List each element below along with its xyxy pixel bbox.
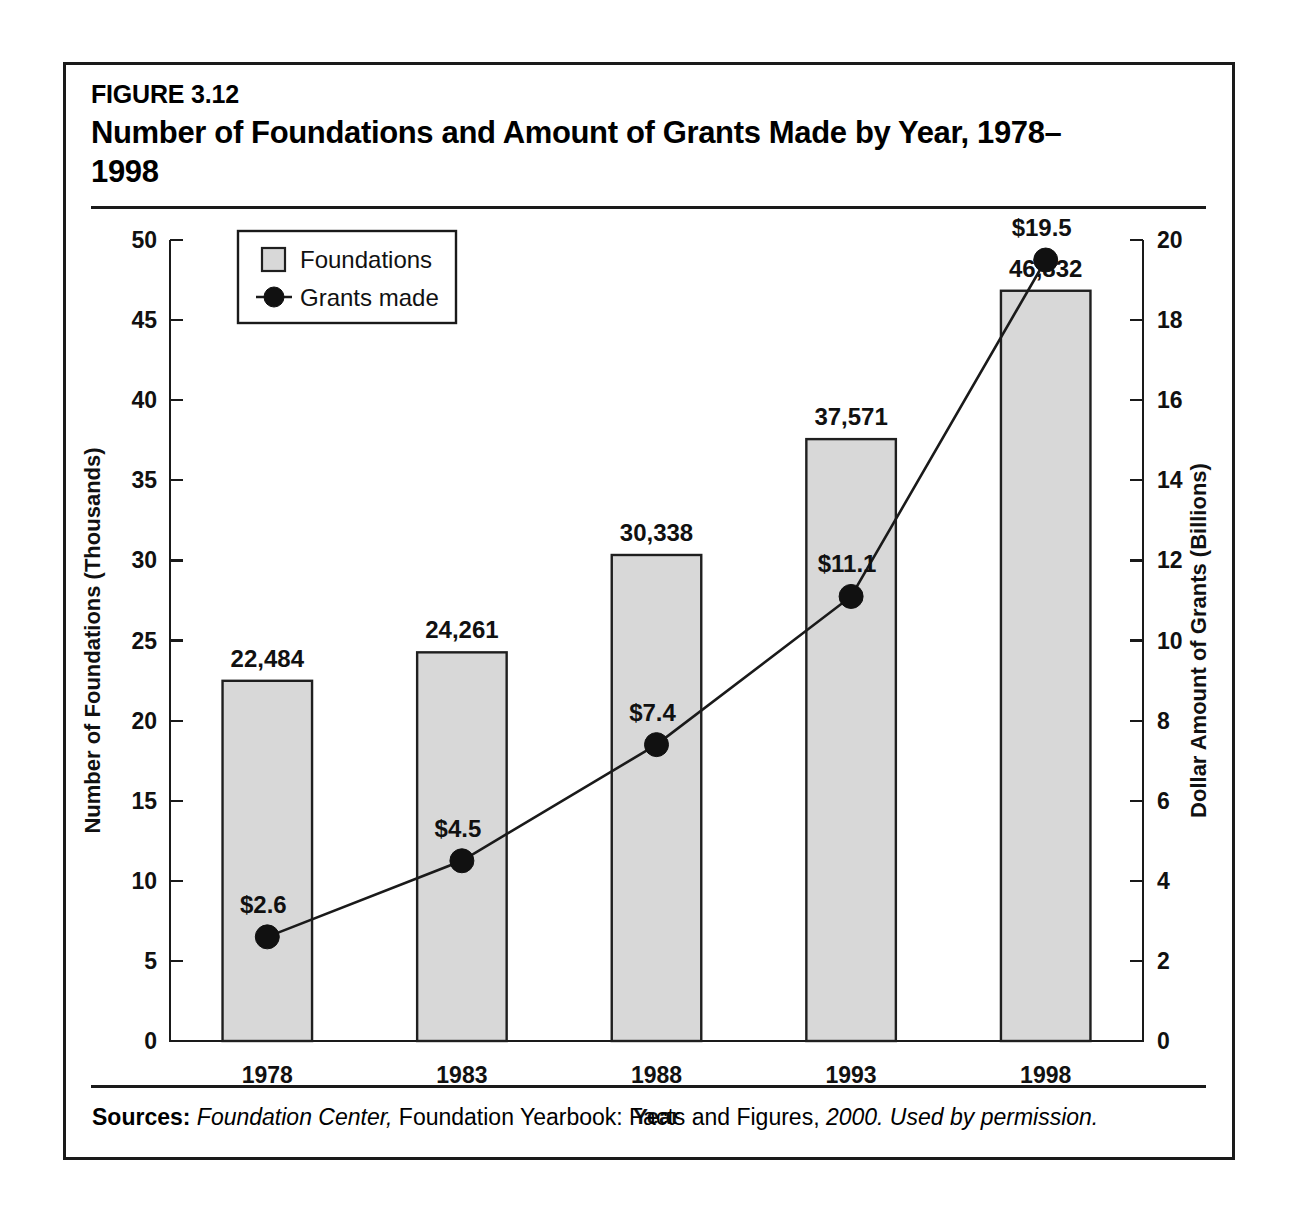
bar-value-label: 24,261 xyxy=(425,616,498,643)
y2-axis-tick-label: 2 xyxy=(1157,948,1170,974)
bar-value-label: 37,571 xyxy=(814,403,887,430)
y2-axis-tick-label: 0 xyxy=(1157,1028,1170,1054)
source-label: Sources: xyxy=(92,1104,190,1130)
bar xyxy=(806,439,896,1041)
grants-data-point xyxy=(1034,248,1058,272)
legend-foundations-swatch xyxy=(262,248,285,271)
legend-grants-marker xyxy=(264,287,284,307)
bar xyxy=(223,681,313,1041)
bar xyxy=(1001,291,1091,1041)
grants-value-label: $2.6 xyxy=(240,891,287,918)
y-axis-tick-label: 10 xyxy=(131,868,157,894)
y2-axis-tick-label: 6 xyxy=(1157,788,1170,814)
y-axis-tick-label: 40 xyxy=(131,387,157,413)
y2-axis-tick-label: 18 xyxy=(1157,307,1183,333)
source-italic-two: 2000. Used by permission. xyxy=(826,1104,1098,1130)
bar xyxy=(417,652,507,1041)
y-axis-tick-label: 20 xyxy=(131,708,157,734)
bar-value-label: 22,484 xyxy=(231,645,305,672)
y-axis-tick-label: 35 xyxy=(131,467,157,493)
grants-value-label: $7.4 xyxy=(629,699,676,726)
y-axis-tick-label: 30 xyxy=(131,547,157,573)
grants-value-label: $19.5 xyxy=(1012,214,1072,241)
figure-frame: FIGURE 3.12 Number of Foundations and Am… xyxy=(63,62,1235,1160)
y-axis-tick-label: 5 xyxy=(144,948,157,974)
grants-data-point xyxy=(645,733,669,757)
grants-data-point xyxy=(839,584,863,608)
grants-data-point xyxy=(450,849,474,873)
y2-axis-tick-label: 16 xyxy=(1157,387,1183,413)
y-axis-tick-label: 0 xyxy=(144,1028,157,1054)
legend-grants-label: Grants made xyxy=(300,284,439,311)
chart-svg: 051015202530354045500246810121416182022,… xyxy=(66,65,1238,1163)
y2-axis-tick-label: 14 xyxy=(1157,467,1183,493)
y2-axis-tick-label: 8 xyxy=(1157,708,1170,734)
y2-axis-tick-label: 12 xyxy=(1157,547,1183,573)
y-axis-tick-label: 45 xyxy=(131,307,157,333)
bar-value-label: 30,338 xyxy=(620,519,693,546)
y-axis-title: Number of Foundations (Thousands) xyxy=(80,447,105,833)
y-axis-tick-label: 25 xyxy=(131,628,157,654)
y-axis-tick-label: 15 xyxy=(131,788,157,814)
chart-plot-area: 051015202530354045500246810121416182022,… xyxy=(66,65,1238,1163)
legend-foundations-label: Foundations xyxy=(300,246,432,273)
grants-data-point xyxy=(255,925,279,949)
source-divider xyxy=(91,1085,1206,1088)
bar xyxy=(612,555,702,1041)
y2-axis-title: Dollar Amount of Grants (Billions) xyxy=(1186,463,1211,818)
grants-value-label: $4.5 xyxy=(435,815,482,842)
source-italic-one: Foundation Center, xyxy=(197,1104,393,1130)
y2-axis-tick-label: 10 xyxy=(1157,628,1183,654)
y2-axis-tick-label: 20 xyxy=(1157,227,1183,253)
y2-axis-tick-label: 4 xyxy=(1157,868,1170,894)
source-roman: Foundation Yearbook: Facts and Figures, xyxy=(399,1104,820,1130)
source-note: Sources: Foundation Center, Foundation Y… xyxy=(92,1103,1098,1133)
grants-value-label: $11.1 xyxy=(818,550,877,577)
y-axis-tick-label: 50 xyxy=(131,227,157,253)
